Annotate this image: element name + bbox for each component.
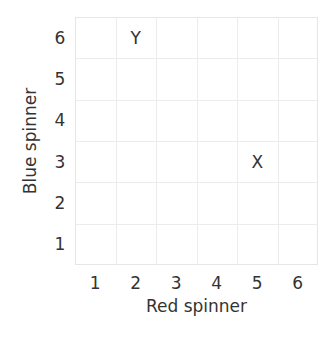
x-tick-label: 1 bbox=[85, 273, 105, 293]
gridline-horizontal bbox=[75, 141, 318, 142]
y-tick-label: 2 bbox=[50, 193, 70, 213]
y-tick-label: 1 bbox=[50, 234, 70, 254]
point-label-x: X bbox=[247, 152, 267, 172]
gridline-vertical bbox=[278, 17, 279, 265]
x-tick-label: 4 bbox=[207, 273, 227, 293]
point-label-y: Y bbox=[126, 28, 146, 48]
x-tick-label: 5 bbox=[247, 273, 267, 293]
y-tick-label: 4 bbox=[50, 110, 70, 130]
gridline-vertical bbox=[237, 17, 238, 265]
x-axis-label: Red spinner bbox=[75, 296, 318, 316]
y-tick-label: 3 bbox=[50, 152, 70, 172]
y-axis-label: Blue spinner bbox=[20, 88, 40, 194]
gridline-horizontal bbox=[75, 224, 318, 225]
gridline-horizontal bbox=[75, 182, 318, 183]
x-tick-label: 6 bbox=[288, 273, 308, 293]
y-tick-label: 5 bbox=[50, 69, 70, 89]
y-tick-label: 6 bbox=[50, 28, 70, 48]
x-tick-label: 3 bbox=[166, 273, 186, 293]
x-tick-label: 2 bbox=[126, 273, 146, 293]
